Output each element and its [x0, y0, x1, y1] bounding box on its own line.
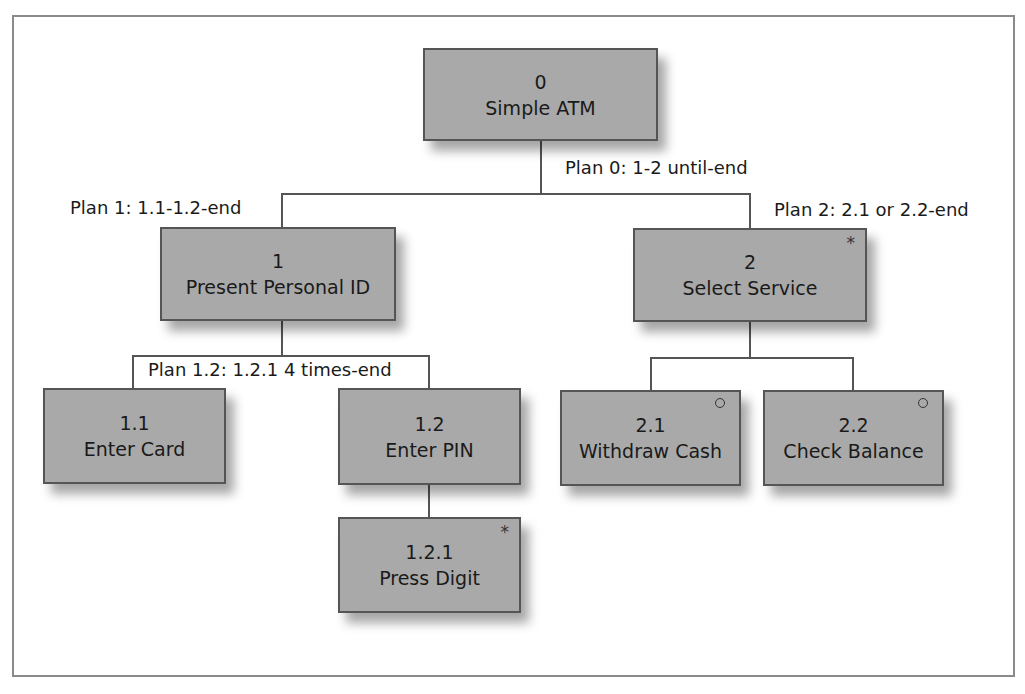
task-node-label: Present Personal ID: [186, 274, 370, 300]
connector-1-down: [281, 320, 283, 356]
task-node-0[interactable]: 0 Simple ATM: [423, 48, 658, 141]
task-node-2-2[interactable]: 2.2 Check Balance: [763, 390, 944, 486]
task-node-id: 2: [744, 249, 756, 275]
plan-2-label: Plan 2: 2.1 or 2.2-end: [774, 199, 969, 221]
task-node-1-2[interactable]: 1.2 Enter PIN: [338, 388, 521, 485]
plan-1-2-label: Plan 1.2: 1.2.1 4 times-end: [148, 359, 392, 381]
task-node-id: 1.1: [119, 410, 149, 436]
connector-1-2-to-1-2-1: [428, 484, 430, 519]
task-node-label: Enter PIN: [385, 437, 473, 463]
connector-to-1-2: [428, 355, 430, 389]
task-node-label: Enter Card: [84, 436, 186, 462]
task-node-label: Withdraw Cash: [579, 438, 722, 464]
task-node-1-2-1[interactable]: * 1.2.1 Press Digit: [338, 517, 521, 613]
task-node-id: 0: [534, 69, 546, 95]
optional-circle-marker-icon: [918, 398, 928, 408]
task-node-id: 1: [272, 248, 284, 274]
task-node-2-1[interactable]: 2.1 Withdraw Cash: [560, 390, 741, 486]
connector-2-down: [749, 321, 751, 358]
connector-to-2-1: [650, 357, 652, 391]
connector-level2-right-horizontal: [650, 357, 854, 359]
task-node-label: Select Service: [683, 275, 818, 301]
task-node-label: Check Balance: [783, 438, 923, 464]
connector-level2-left-horizontal: [132, 355, 430, 357]
connector-level1-horizontal: [281, 193, 751, 195]
asterisk-marker-icon: *: [847, 234, 856, 252]
connector-0-down: [540, 140, 542, 194]
task-node-id: 1.2.1: [405, 539, 453, 565]
connector-to-1: [281, 193, 283, 229]
task-node-label: Simple ATM: [485, 95, 595, 121]
task-node-id: 1.2: [414, 411, 444, 437]
task-node-1[interactable]: 1 Present Personal ID: [160, 227, 396, 321]
task-node-id: 2.2: [838, 412, 868, 438]
optional-circle-marker-icon: [715, 398, 725, 408]
task-node-id: 2.1: [635, 412, 665, 438]
plan-0-label: Plan 0: 1-2 until-end: [565, 157, 748, 179]
connector-to-2: [749, 193, 751, 229]
connector-to-2-2: [852, 357, 854, 391]
connector-to-1-1: [132, 355, 134, 389]
task-node-label: Press Digit: [379, 565, 480, 591]
task-node-1-1[interactable]: 1.1 Enter Card: [43, 388, 226, 484]
plan-1-label: Plan 1: 1.1-1.2-end: [70, 197, 241, 219]
task-node-2[interactable]: * 2 Select Service: [633, 228, 867, 322]
asterisk-marker-icon: *: [501, 523, 510, 541]
